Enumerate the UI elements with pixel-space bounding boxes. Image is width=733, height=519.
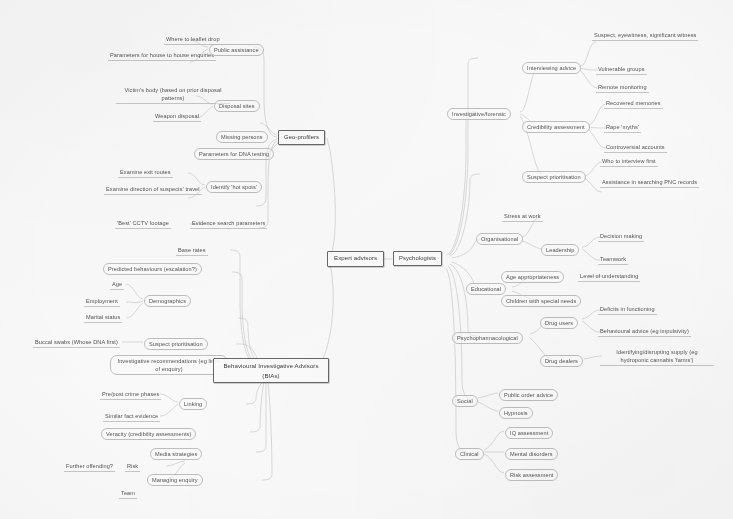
leaf-label: Risk xyxy=(125,462,140,472)
leaf-victims-body[interactable]: Victim's body (based on prior disposal p… xyxy=(116,86,198,104)
node-suspect-prioritisation-psych[interactable]: Suspect prioritisation xyxy=(522,171,586,183)
leaf-who-to-interview-first[interactable]: Who to interview first xyxy=(600,157,658,167)
leaf-label: Employment xyxy=(84,297,120,307)
leaf-decision-making[interactable]: Decision making xyxy=(598,232,644,242)
leaf-risk[interactable]: Risk xyxy=(125,462,140,472)
leaf-base-rates[interactable]: Base rates xyxy=(176,246,208,256)
node-label: Credibility assessment xyxy=(522,121,590,133)
node-disposal-sites[interactable]: Disposal sites xyxy=(214,100,260,112)
node-label: Disposal sites xyxy=(214,100,260,112)
node-managing-enquiry[interactable]: Managing enquiry xyxy=(147,474,203,486)
leaf-label: Similar fact evidence xyxy=(103,412,160,422)
node-leadership[interactable]: Leadership xyxy=(541,244,579,256)
node-psychopharmacological[interactable]: Psychopharmacological xyxy=(452,332,523,344)
leaf-label: Recovered memories xyxy=(604,99,663,109)
leaf-level-of-understanding[interactable]: Level of understanding xyxy=(578,272,640,282)
node-media-strategies[interactable]: Media strategies xyxy=(150,448,202,460)
node-parameters-for-dna-testing[interactable]: Parameters for DNA testing xyxy=(194,148,274,160)
node-identify-hot-spots[interactable]: Identify 'hot spots' xyxy=(206,181,262,193)
leaf-behavioural-advice[interactable]: Behavioural advice (eg impulsivity) xyxy=(598,327,691,337)
leaf-best-cctv-footage[interactable]: 'Best' CCTV footage xyxy=(115,219,171,229)
node-psychologists[interactable]: Psychologists xyxy=(393,251,442,266)
node-missing-persons[interactable]: Missing persons xyxy=(216,131,268,143)
node-veracity[interactable]: Veracity (credibility assessments) xyxy=(101,428,196,440)
node-credibility-assessment[interactable]: Credibility assessment xyxy=(522,121,590,133)
node-label: Behavioural Investigative Advisors (BIAs… xyxy=(213,358,329,383)
leaf-identifying-disrupting-supply[interactable]: Identifying/disrupting supply (eg hydrop… xyxy=(600,348,698,366)
node-risk-assessment[interactable]: Risk assessment xyxy=(505,469,558,481)
leaf-vulnerable-groups[interactable]: Vulnerable groups xyxy=(596,65,647,75)
node-investigative-forensic[interactable]: Investigative/forensic xyxy=(447,108,511,120)
node-age-appropriateness[interactable]: Age appropriateness xyxy=(501,271,564,283)
node-label: Psychologists xyxy=(393,251,442,266)
leaf-remote-monitoring[interactable]: Remote monitoring xyxy=(596,83,649,93)
node-predicted-behaviours[interactable]: Predicted behaviours (escalation?) xyxy=(103,263,202,275)
leaf-label: Teamwork xyxy=(598,255,628,265)
node-social[interactable]: Social xyxy=(452,395,478,407)
node-label: Drug users xyxy=(540,317,578,329)
node-iq-assessment[interactable]: IQ assessment xyxy=(505,427,553,439)
leaf-deficits-in-functioning[interactable]: Deficits in functioning xyxy=(598,305,657,315)
leaf-label: Remote monitoring xyxy=(596,83,649,93)
leaf-label: Victim's body (based on prior disposal p… xyxy=(116,86,230,104)
leaf-weapon-disposal[interactable]: Weapon disposal xyxy=(153,112,201,122)
node-public-order-advice[interactable]: Public order advice xyxy=(499,389,558,401)
leaf-label: Stress at work xyxy=(502,212,543,222)
leaf-label: Team xyxy=(119,489,137,499)
node-bias[interactable]: Behavioural Investigative Advisors (BIAs… xyxy=(213,358,315,383)
leaf-rape-myths[interactable]: Rape 'myths' xyxy=(604,123,641,133)
leaf-label: Behavioural advice (eg impulsivity) xyxy=(598,327,691,337)
leaf-buccal-swabs[interactable]: Buccal swabs (Whose DNA first) xyxy=(33,338,120,348)
leaf-teamwork[interactable]: Teamwork xyxy=(598,255,628,265)
node-investigative-recommendations[interactable]: Investigative recommendations (eg lines … xyxy=(110,355,210,375)
node-label: Geo-profilers xyxy=(278,130,325,145)
leaf-employment[interactable]: Employment xyxy=(84,297,120,307)
leaf-parameters-house-to-house[interactable]: Parameters for house to house enquiries xyxy=(108,51,192,61)
node-organisational[interactable]: Organisational xyxy=(476,233,523,245)
leaf-controversial-accounts[interactable]: Controversial accounts xyxy=(604,143,667,153)
node-geo-profilers[interactable]: Geo-profilers xyxy=(278,130,325,145)
node-clinical[interactable]: Clinical xyxy=(455,448,484,460)
node-educational[interactable]: Educational xyxy=(466,283,506,295)
node-label: Hypnosis xyxy=(499,407,533,419)
leaf-label: Rape 'myths' xyxy=(604,123,641,133)
node-label: Interviewing advice xyxy=(522,62,581,74)
leaf-label: Assistance in searching PNC records xyxy=(600,178,699,188)
leaf-examine-exit-routes[interactable]: Examine exit routes xyxy=(118,168,173,178)
node-public-assistance[interactable]: Public assistance xyxy=(209,44,264,56)
leaf-suspect-eyewitness-witness[interactable]: Suspect, eyewitness, significant witness xyxy=(592,31,688,41)
leaf-similar-fact-evidence[interactable]: Similar fact evidence xyxy=(103,412,160,422)
node-drug-dealers[interactable]: Drug dealers xyxy=(540,355,583,367)
leaf-team[interactable]: Team xyxy=(119,489,137,499)
leaf-age[interactable]: Age xyxy=(110,280,124,290)
node-interviewing-advice[interactable]: Interviewing advice xyxy=(522,62,581,74)
node-label: Age appropriateness xyxy=(501,271,564,283)
leaf-label: Controversial accounts xyxy=(604,143,667,153)
leaf-further-offending[interactable]: Further offending? xyxy=(64,462,115,472)
leaf-assistance-pnc-records[interactable]: Assistance in searching PNC records xyxy=(600,178,692,188)
node-label: Leadership xyxy=(541,244,579,256)
node-label: Social xyxy=(452,395,478,407)
leaf-label: Buccal swabs (Whose DNA first) xyxy=(33,338,120,348)
node-children-with-special-needs[interactable]: Children with special needs xyxy=(501,295,581,307)
node-label: Clinical xyxy=(455,448,484,460)
node-label: Linking xyxy=(179,398,207,410)
leaf-recovered-memories[interactable]: Recovered memories xyxy=(604,99,663,109)
leaf-stress-at-work[interactable]: Stress at work xyxy=(502,212,543,222)
node-label: Public assistance xyxy=(209,44,264,56)
mindmap-canvas: Where to leaflet drop Parameters for hou… xyxy=(0,0,733,519)
node-label: Demographics xyxy=(144,295,191,307)
node-linking[interactable]: Linking xyxy=(179,398,207,410)
node-expert-advisors-root[interactable]: Expert advisors xyxy=(327,251,384,267)
node-mental-disorders[interactable]: Mental disorders xyxy=(505,448,558,460)
node-label: Missing persons xyxy=(216,131,268,143)
leaf-pre-post-crime-phases[interactable]: Pre/post crime phases xyxy=(100,390,161,400)
leaf-examine-direction-of-travel[interactable]: Examine direction of suspects' travel xyxy=(104,185,190,195)
node-evidence-search-parameters[interactable]: Evidence search parameters xyxy=(190,219,267,229)
node-drug-users[interactable]: Drug users xyxy=(540,317,578,329)
node-hypnosis[interactable]: Hypnosis xyxy=(499,407,533,419)
leaf-marital-status[interactable]: Marital status xyxy=(84,313,122,323)
node-suspect-prioritisation-bia[interactable]: Suspect prioritisation xyxy=(144,338,208,350)
node-demographics[interactable]: Demographics xyxy=(144,295,191,307)
leaf-label: Age xyxy=(110,280,124,290)
